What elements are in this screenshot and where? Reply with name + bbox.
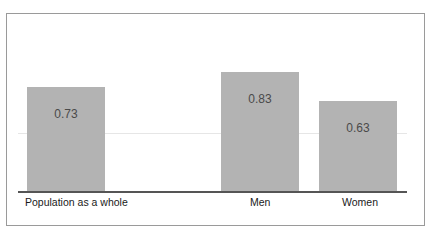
x-axis-label-population: Population as a whole	[25, 196, 128, 208]
bar-value-label: 0.73	[27, 107, 105, 121]
bar-value-label: 0.83	[221, 92, 299, 106]
x-axis-label-women: Women	[342, 196, 378, 208]
bar-value-label: 0.63	[319, 121, 397, 135]
bar-population-as-a-whole: 0.73	[27, 87, 105, 192]
x-axis-baseline	[18, 191, 407, 193]
bar-men: 0.83	[221, 72, 299, 192]
x-axis-label-men: Men	[250, 196, 270, 208]
bar-women: 0.63	[319, 101, 397, 192]
